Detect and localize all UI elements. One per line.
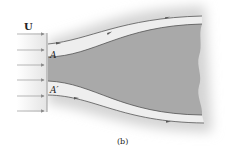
point-a-prime-label: A′ <box>49 85 59 95</box>
velocity-label: U <box>24 21 33 32</box>
figure-caption: (b) <box>117 137 128 146</box>
uniform-flow-region <box>17 33 47 112</box>
flow-diagram: U A A′ (b) <box>0 0 227 156</box>
point-a-label: A <box>49 50 57 60</box>
